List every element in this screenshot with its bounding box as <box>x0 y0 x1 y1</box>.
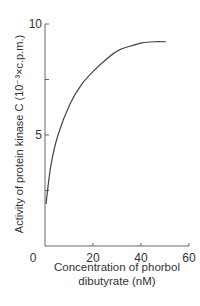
y-tick-labels: 510 <box>29 17 43 142</box>
x-axis-label-line1: Concentration of phorbol <box>54 261 180 273</box>
axes <box>45 24 189 246</box>
y-tick-label: 10 <box>29 17 43 31</box>
y-axis-label: Activity of protein kinase C (10⁻³×c.p.m… <box>13 35 25 233</box>
x-axis-label-line2: dibutyrate (nM) <box>78 275 156 287</box>
x-tick-label: 60 <box>182 251 196 265</box>
data-line <box>46 42 166 204</box>
chart: 0204060 510 Concentration of phorbol dib… <box>0 0 200 306</box>
y-tick-label: 5 <box>35 128 42 142</box>
x-tick-label: 0 <box>30 251 37 265</box>
